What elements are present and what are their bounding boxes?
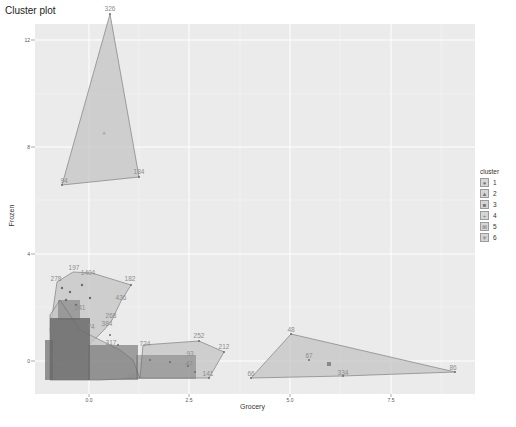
svg-text:66: 66 (247, 370, 255, 377)
svg-text:7.5: 7.5 (388, 397, 395, 403)
svg-text:94: 94 (60, 177, 68, 184)
legend: cluster ● 1 ▲ 2 ■ 3 + 4 ⊠ 5 ✳ 6 (480, 168, 499, 243)
svg-text:212: 212 (219, 343, 230, 350)
svg-text:184: 184 (134, 168, 145, 175)
svg-text:5.0: 5.0 (287, 397, 294, 403)
svg-text:93: 93 (186, 350, 194, 357)
svg-text:278: 278 (51, 275, 62, 282)
legend-label-3: 3 (493, 201, 497, 208)
plus-icon: + (481, 212, 488, 219)
svg-text:326: 326 (105, 5, 116, 12)
legend-item-3: ■ 3 (480, 199, 499, 210)
legend-key-2: ▲ (480, 189, 489, 198)
svg-text:268: 268 (106, 312, 117, 319)
legend-title: cluster (480, 168, 499, 175)
legend-key-6: ✳ (480, 233, 489, 242)
legend-item-6: ✳ 6 (480, 232, 499, 243)
legend-label-2: 2 (493, 190, 497, 197)
svg-text:86: 86 (449, 364, 457, 371)
svg-text:1404: 1404 (81, 269, 96, 276)
plot-area: 12 8 4 0 0.0 2.5 5.0 7.5 + (0, 0, 516, 427)
legend-key-1: ● (480, 178, 489, 187)
legend-item-5: ⊠ 5 (480, 221, 499, 232)
svg-text:334: 334 (338, 369, 349, 376)
triangle-icon: ▲ (481, 190, 488, 197)
svg-text:4: 4 (27, 251, 30, 257)
svg-text:140: 140 (127, 372, 138, 379)
legend-label-4: 4 (493, 212, 497, 219)
circle-icon: ● (481, 179, 488, 186)
svg-text:0: 0 (27, 358, 30, 364)
x-axis-label: Grocery (240, 403, 265, 410)
cluster-3-center-icon (327, 362, 331, 366)
svg-text:2.5: 2.5 (186, 397, 193, 403)
x-axis-ticks: 0.0 2.5 5.0 7.5 (86, 394, 395, 403)
legend-key-4: + (480, 211, 489, 220)
svg-text:724: 724 (140, 340, 151, 347)
legend-key-3: ■ (480, 200, 489, 209)
legend-item-4: + 4 (480, 210, 499, 221)
svg-text:384: 384 (102, 320, 113, 327)
legend-label-6: 6 (493, 234, 497, 241)
svg-text:47: 47 (185, 360, 193, 367)
svg-text:67: 67 (305, 352, 313, 359)
svg-text:74: 74 (87, 323, 95, 330)
svg-text:141: 141 (203, 370, 214, 377)
svg-text:0.0: 0.0 (86, 397, 93, 403)
y-axis-ticks: 12 8 4 0 (24, 37, 35, 364)
asterisk-icon: ✳ (481, 234, 488, 241)
legend-item-1: ● 1 (480, 177, 499, 188)
svg-text:8: 8 (27, 144, 30, 150)
svg-text:436: 436 (116, 294, 127, 301)
legend-key-5: ⊠ (480, 222, 489, 231)
y-axis-label: Frozen (8, 201, 15, 231)
square-icon: ■ (481, 201, 488, 208)
svg-text:241: 241 (75, 304, 86, 311)
svg-text:12: 12 (24, 37, 30, 43)
svg-text:182: 182 (125, 275, 136, 282)
legend-item-2: ▲ 2 (480, 188, 499, 199)
legend-label-5: 5 (493, 223, 497, 230)
svg-text:317: 317 (106, 339, 117, 346)
cluster-1-center-icon: + (102, 130, 106, 137)
legend-label-1: 1 (493, 179, 497, 186)
boxed-x-icon: ⊠ (481, 223, 488, 230)
svg-text:48: 48 (287, 326, 295, 333)
svg-text:252: 252 (194, 332, 205, 339)
svg-text:197: 197 (69, 264, 80, 271)
